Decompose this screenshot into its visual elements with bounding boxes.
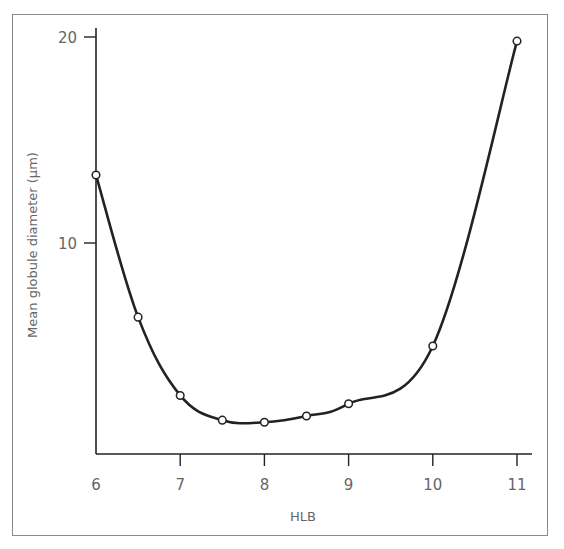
x-tick-label-7: 7 bbox=[175, 476, 185, 494]
y-tick-label-20: 20 bbox=[58, 29, 77, 47]
y-tick-label-10: 10 bbox=[58, 235, 77, 253]
data-point bbox=[92, 171, 100, 179]
x-tick-label-6: 6 bbox=[91, 476, 101, 494]
x-tick-label-9: 9 bbox=[344, 476, 354, 494]
data-point bbox=[176, 392, 184, 400]
chart-plot: 20 10 67891011 HLB Mean globule diameter… bbox=[0, 0, 564, 549]
x-tick-label-8: 8 bbox=[260, 476, 270, 494]
x-axis-label: HLB bbox=[290, 509, 316, 524]
x-tick-label-11: 11 bbox=[507, 476, 526, 494]
data-point bbox=[219, 416, 227, 424]
data-point bbox=[513, 37, 521, 45]
y-axis-label: Mean globule diameter (µm) bbox=[25, 152, 40, 338]
data-line bbox=[96, 41, 517, 423]
x-tick-label-10: 10 bbox=[423, 476, 442, 494]
data-point bbox=[429, 342, 437, 350]
data-point bbox=[345, 400, 353, 408]
data-point bbox=[261, 418, 269, 426]
data-point bbox=[303, 412, 311, 420]
data-point bbox=[134, 313, 142, 321]
